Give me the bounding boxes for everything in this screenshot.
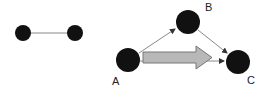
graph-diagram: A B C [0,0,266,90]
node-b [176,10,200,34]
edge-b-to-c [198,30,227,53]
left-node-1 [15,25,31,41]
node-a [116,48,140,72]
label-a: A [112,75,120,87]
node-c [226,50,250,74]
flow-arrow [143,46,212,69]
label-b: B [205,1,212,13]
left-node-2 [67,25,83,41]
diagram-canvas: A B C [0,0,266,90]
label-c: C [247,74,255,86]
edge-a-to-b [139,29,175,53]
